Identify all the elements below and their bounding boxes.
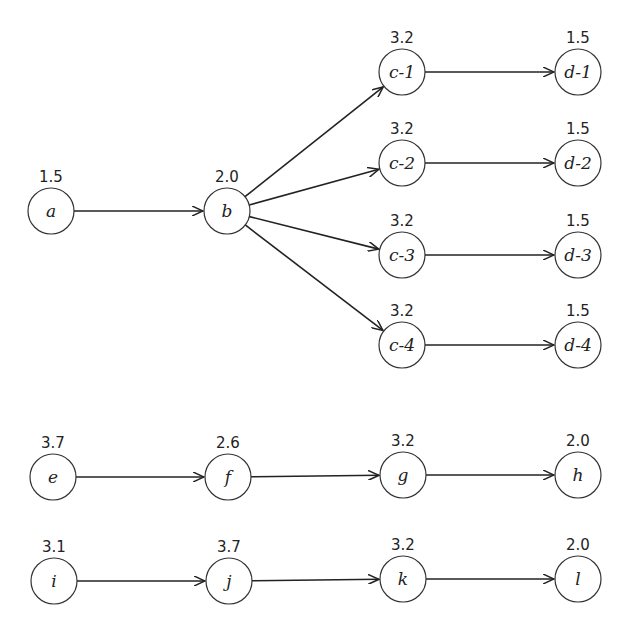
edge-j-to-k xyxy=(252,579,379,580)
nodes: 1.5a2.0b3.2c-13.2c-23.2c-33.2c-41.5d-11.… xyxy=(28,29,601,604)
node-f: 2.6f xyxy=(205,434,251,500)
edges xyxy=(74,72,554,581)
node-label: d-3 xyxy=(564,245,591,265)
node-weight-label: 3.2 xyxy=(391,432,415,450)
node-label: b xyxy=(222,201,233,221)
node-weight-label: 3.2 xyxy=(390,29,414,47)
node-weight-label: 2.0 xyxy=(566,536,590,554)
node-label: l xyxy=(575,569,580,589)
node-h: 2.0h xyxy=(555,432,601,498)
node-d-1: 1.5d-1 xyxy=(555,29,601,95)
node-c-3: 3.2c-3 xyxy=(379,212,425,278)
node-label: c-3 xyxy=(389,245,415,265)
node-weight-label: 1.5 xyxy=(566,120,590,138)
node-label: d-1 xyxy=(564,62,591,82)
node-g: 3.2g xyxy=(380,432,426,498)
edge-f-to-g xyxy=(251,475,379,476)
node-label: k xyxy=(398,569,408,589)
node-d-4: 1.5d-4 xyxy=(555,302,601,368)
node-weight-label: 1.5 xyxy=(566,302,590,320)
node-label: a xyxy=(46,201,56,221)
edge-b-to-c-1 xyxy=(245,87,383,197)
node-weight-label: 3.2 xyxy=(390,212,414,230)
node-c-4: 3.2c-4 xyxy=(379,302,425,368)
node-a: 1.5a xyxy=(28,168,74,234)
node-weight-label: 3.2 xyxy=(390,302,414,320)
node-label: c-1 xyxy=(389,62,415,82)
node-label: g xyxy=(398,465,409,485)
node-weight-label: 2.6 xyxy=(216,434,240,452)
node-weight-label: 3.7 xyxy=(41,434,65,452)
node-weight-label: 2.0 xyxy=(566,432,590,450)
node-l: 2.0l xyxy=(555,536,601,602)
node-label: d-2 xyxy=(564,153,591,173)
node-weight-label: 3.2 xyxy=(390,120,414,138)
node-k: 3.2k xyxy=(380,536,426,602)
node-label: c-4 xyxy=(389,335,415,355)
node-i: 3.1i xyxy=(31,538,77,604)
node-label: c-2 xyxy=(389,153,415,173)
node-label: e xyxy=(48,467,58,487)
node-weight-label: 3.1 xyxy=(42,538,66,556)
node-weight-label: 2.0 xyxy=(215,168,239,186)
node-label: h xyxy=(573,465,584,485)
node-weight-label: 3.2 xyxy=(391,536,415,554)
edge-b-to-c-2 xyxy=(249,169,379,205)
directed-graph: 1.5a2.0b3.2c-13.2c-23.2c-33.2c-41.5d-11.… xyxy=(0,0,628,627)
node-c-1: 3.2c-1 xyxy=(379,29,425,95)
node-d-3: 1.5d-3 xyxy=(555,212,601,278)
node-b: 2.0b xyxy=(204,168,250,234)
node-d-2: 1.5d-2 xyxy=(555,120,601,186)
node-weight-label: 3.7 xyxy=(217,538,241,556)
node-label: i xyxy=(51,571,56,591)
node-e: 3.7e xyxy=(30,434,76,500)
node-weight-label: 1.5 xyxy=(566,29,590,47)
node-weight-label: 1.5 xyxy=(566,212,590,230)
edge-b-to-c-3 xyxy=(249,217,378,250)
node-label: d-4 xyxy=(564,335,591,355)
node-weight-label: 1.5 xyxy=(39,168,63,186)
node-j: 3.7j xyxy=(206,538,252,604)
edge-b-to-c-4 xyxy=(245,225,383,330)
node-c-2: 3.2c-2 xyxy=(379,120,425,186)
